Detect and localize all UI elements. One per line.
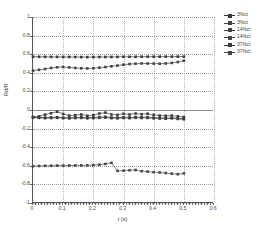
x-tick-mark (135, 203, 136, 205)
x-axis-tick-label: 0.1 (59, 206, 66, 211)
x-tick-mark (83, 203, 84, 205)
y-tick-mark (30, 36, 32, 37)
legend-line-swatch (224, 23, 235, 24)
legend-label: 37%ct (237, 43, 251, 48)
chart-figure: 10.80.60.40.20-0.2-0.4-0.6-0.8-1 00.10.2… (0, 0, 268, 235)
y-axis-title: Rd/R (3, 83, 9, 96)
legend-label: 3%ct (237, 13, 248, 18)
x-tick-mark (138, 203, 139, 205)
y-axis-tick-label: 0.6 (23, 52, 30, 57)
x-tick-mark (38, 203, 39, 205)
legend-label: 14%ct (237, 28, 251, 33)
x-axis-tick-label: 0.6 (209, 206, 216, 211)
x-tick-mark (113, 203, 114, 205)
x-tick-mark (47, 203, 48, 205)
x-tick-mark (50, 203, 51, 205)
x-tick-mark (189, 203, 190, 205)
x-axis-tick-labels: 00.10.20.30.40.50.6 (32, 206, 213, 216)
y-axis-tick-label: -0.4 (21, 145, 30, 150)
y-tick-mark (30, 73, 32, 74)
x-tick-mark (177, 203, 178, 205)
chart-legend: 3%ct3%ct14%ct14%ct37%ct37%ct (224, 12, 268, 56)
x-tick-mark (35, 203, 36, 205)
y-axis-tick-label: 0.4 (23, 70, 30, 75)
x-tick-mark (116, 203, 117, 205)
y-tick-mark (30, 91, 32, 92)
legend-line-swatch (224, 15, 235, 16)
y-tick-mark (30, 110, 32, 111)
y-axis-tick-label: -0.6 (21, 163, 30, 168)
x-axis-tick-label: 0.5 (179, 206, 186, 211)
x-tick-mark (41, 203, 42, 205)
x-tick-mark (195, 203, 196, 205)
y-tick-mark (30, 166, 32, 167)
y-tick-mark (30, 147, 32, 148)
legend-line-swatch (224, 45, 235, 46)
x-tick-mark (141, 203, 142, 205)
legend-line-swatch (224, 52, 235, 53)
legend-label: 3%ct (237, 21, 248, 26)
x-tick-mark (71, 203, 72, 205)
x-tick-mark (80, 203, 81, 205)
x-tick-mark (68, 203, 69, 205)
legend-item: 3%ct (224, 19, 268, 26)
legend-marker-icon (228, 21, 232, 25)
x-tick-mark (168, 203, 169, 205)
y-tick-mark (30, 203, 32, 204)
y-tick-mark (30, 129, 32, 130)
legend-item: 37%ct (224, 49, 268, 56)
x-tick-mark (110, 203, 111, 205)
x-tick-mark (162, 203, 163, 205)
x-axis-tick-label: 0.3 (119, 206, 126, 211)
x-tick-mark (77, 203, 78, 205)
x-tick-mark (74, 203, 75, 205)
y-tick-mark (30, 184, 32, 185)
legend-marker-icon (228, 36, 232, 40)
x-tick-mark (86, 203, 87, 205)
x-tick-mark (174, 203, 175, 205)
legend-marker-icon (228, 14, 232, 18)
y-axis-tick-label: -0.2 (21, 126, 30, 131)
x-tick-mark (201, 203, 202, 205)
legend-item: 14%ct (224, 27, 268, 34)
x-tick-mark (101, 203, 102, 205)
x-tick-mark (144, 203, 145, 205)
x-tick-mark (107, 203, 108, 205)
x-axis-tick-label: 0.2 (89, 206, 96, 211)
x-tick-mark (44, 203, 45, 205)
x-tick-mark (207, 203, 208, 205)
x-tick-mark (198, 203, 199, 205)
legend-label: 37%ct (237, 50, 251, 55)
y-tick-mark (30, 17, 32, 18)
legend-item: 14%ct (224, 34, 268, 41)
x-tick-mark (147, 203, 148, 205)
y-tick-mark (30, 54, 32, 55)
legend-marker-icon (228, 51, 232, 55)
legend-item: 3%ct (224, 12, 268, 19)
x-tick-mark (98, 203, 99, 205)
x-tick-mark (53, 203, 54, 205)
y-axis-tick-label: 0.8 (23, 33, 30, 38)
x-axis-tick-label: 0 (31, 206, 34, 211)
x-tick-mark (165, 203, 166, 205)
x-tick-mark (204, 203, 205, 205)
x-axis-title: t (s) (32, 216, 213, 222)
legend-line-swatch (224, 30, 235, 31)
y-axis-tick-label: 0.2 (23, 89, 30, 94)
y-axis-tick-labels: 10.80.60.40.20-0.2-0.4-0.6-0.8-1 (0, 17, 30, 203)
legend-label: 14%ct (237, 35, 251, 40)
x-tick-mark (171, 203, 172, 205)
x-tick-mark (132, 203, 133, 205)
x-axis-tick-label: 0.4 (149, 206, 156, 211)
x-tick-mark (129, 203, 130, 205)
legend-marker-icon (228, 43, 232, 47)
legend-item: 37%ct (224, 42, 268, 49)
axis-tick-marks (32, 17, 213, 203)
x-tick-mark (56, 203, 57, 205)
x-tick-mark (192, 203, 193, 205)
x-tick-mark (104, 203, 105, 205)
gridline-vertical (214, 17, 215, 202)
legend-line-swatch (224, 37, 235, 38)
x-tick-mark (159, 203, 160, 205)
legend-marker-icon (228, 28, 232, 32)
